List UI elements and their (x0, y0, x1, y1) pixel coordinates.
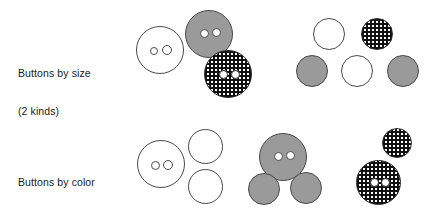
button-hole-right (162, 45, 172, 55)
button-gray-small-right (290, 172, 322, 204)
button-hole-left (150, 47, 158, 55)
button-hole-right (231, 70, 240, 79)
button-white-small-bottom (188, 169, 223, 204)
button-hole-right (163, 160, 173, 170)
row-label-by-size-line2: (2 kinds) (18, 105, 91, 118)
button-hole-left (219, 70, 228, 79)
row-label-by-size: Buttons by size (2 kinds) (18, 42, 91, 142)
button-hole-left (274, 152, 283, 161)
button-white-large-2-hole (136, 26, 184, 74)
row-label-by-color-line1: Buttons by color (18, 176, 95, 189)
button-hole-left (370, 178, 379, 187)
button-patterned-small-top (382, 128, 412, 158)
row-label-by-size-line1: Buttons by size (18, 67, 91, 80)
button-gray-small-left (248, 173, 280, 205)
button-gray-small-right (387, 55, 419, 87)
button-patterned-large-2-hole (356, 160, 401, 205)
button-hole-left (151, 161, 160, 170)
hole-pair (205, 51, 251, 97)
hole-pair (137, 27, 183, 73)
row-label-by-color: Buttons by color (3 kinds) (18, 151, 95, 216)
button-white-small-center (341, 55, 373, 87)
buttons-classification-figure: Buttons by size (2 kinds) (0, 0, 434, 216)
row-label-by-color-line2: (3 kinds) (18, 214, 95, 217)
button-patterned-small-top (361, 18, 393, 50)
button-white-small-top (188, 129, 223, 164)
button-hole-right (286, 151, 295, 160)
button-patterned-large-2-hole (204, 50, 252, 98)
hole-pair (138, 141, 184, 187)
button-hole-right (212, 28, 221, 37)
button-white-small-top (313, 18, 345, 50)
button-gray-small-left (296, 55, 328, 87)
button-hole-left (200, 29, 209, 38)
button-hole-right (381, 178, 390, 187)
button-white-large-2-hole (137, 140, 185, 188)
hole-pair (357, 161, 400, 204)
